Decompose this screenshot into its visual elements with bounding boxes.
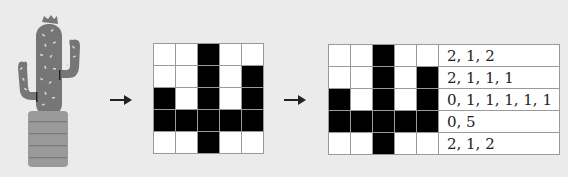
pixel-black [329,89,351,111]
pixel-white [220,44,242,66]
pixel-white [242,44,264,66]
pixel-black [198,132,220,154]
pixel-white [417,45,439,67]
pixel-white [329,45,351,67]
pixel-black [198,66,220,88]
pixel-black [154,88,176,110]
grid-row [154,66,264,88]
pixel-white [417,133,439,155]
pixel-black [417,67,439,89]
pixel-grid [153,43,264,154]
pixel-white [176,66,198,88]
pixel-white [329,67,351,89]
pixel-white [395,133,417,155]
grid-row: 0, 1, 1, 1, 1, 1 [329,89,560,111]
pixel-white [154,44,176,66]
pixel-black [220,110,242,132]
pixel-black [154,110,176,132]
pixel-black [329,111,351,133]
pixel-white [351,89,373,111]
pixel-white [351,133,373,155]
cactus-plant [18,15,80,116]
arrow-right-icon [284,95,306,105]
arrow-right-icon [110,95,132,105]
grid-row: 2, 1, 1, 1 [329,67,560,89]
pixel-white [154,66,176,88]
cactus-illustration [0,0,100,177]
grid-row [154,88,264,110]
grid-row [154,44,264,66]
pixel-black [242,66,264,88]
pixel-white [351,45,373,67]
pixel-white [242,132,264,154]
pixel-white [395,89,417,111]
pixel-black [242,88,264,110]
pixel-white [176,88,198,110]
pixel-white [395,67,417,89]
pixel-black [176,110,198,132]
pixel-black [373,89,395,111]
grid-row: 2, 1, 2 [329,45,560,67]
pixel-white [395,45,417,67]
pixel-black [373,45,395,67]
pixel-white [220,132,242,154]
pixel-black [198,44,220,66]
row-run-length-code: 2, 1, 2 [439,45,560,67]
row-run-length-code: 2, 1, 2 [439,133,560,155]
row-run-length-code: 2, 1, 1, 1 [439,67,560,89]
pixel-white [176,132,198,154]
pixel-black [395,111,417,133]
grid-row [154,132,264,154]
pixel-white [351,67,373,89]
encoded-pixel-grid: 2, 1, 22, 1, 1, 10, 1, 1, 1, 1, 10, 52, … [328,44,560,155]
pixel-white [220,88,242,110]
pixel-white [176,44,198,66]
cactus-pot [28,111,68,167]
row-run-length-code: 0, 1, 1, 1, 1, 1 [439,89,560,111]
grid-row: 0, 5 [329,111,560,133]
pixel-black [417,111,439,133]
pixel-black [242,110,264,132]
grid-row [154,110,264,132]
pixel-black [373,111,395,133]
row-run-length-code: 0, 5 [439,111,560,133]
pixel-black [198,88,220,110]
pixel-black [417,89,439,111]
pixel-black [351,111,373,133]
pixel-white [220,66,242,88]
pixel-white [329,133,351,155]
grid-row: 2, 1, 2 [329,133,560,155]
pixel-black [373,67,395,89]
pixel-black [198,110,220,132]
pixel-black [373,133,395,155]
pixel-white [154,132,176,154]
